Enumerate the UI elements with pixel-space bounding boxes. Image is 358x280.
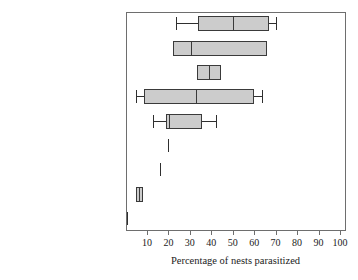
median-line — [191, 41, 192, 56]
box-rect — [173, 41, 267, 56]
x-axis-tick — [233, 231, 234, 235]
x-axis-tick — [319, 231, 320, 235]
whisker-high-line — [202, 121, 216, 122]
whisker-high-line — [254, 96, 262, 97]
whisker-low-cap — [153, 115, 154, 128]
single-value-marker — [160, 163, 161, 176]
single-value-marker — [168, 139, 169, 152]
whisker-low-cap — [136, 90, 137, 103]
median-line — [209, 65, 210, 80]
median-line — [169, 114, 170, 129]
x-axis-tick — [147, 231, 148, 235]
box-plot-row — [0, 184, 358, 206]
x-axis-tick — [254, 231, 255, 235]
box-plot-row — [0, 208, 358, 230]
x-axis-tick — [276, 231, 277, 235]
box-rect — [166, 114, 201, 129]
box-rect — [144, 89, 254, 104]
x-axis-title: Percentage of nests parasitized — [126, 255, 346, 266]
box-plot-row — [0, 38, 358, 60]
x-axis-tick — [190, 231, 191, 235]
box-plot-row — [0, 13, 358, 35]
box-plot-row — [0, 86, 358, 108]
whisker-high-cap — [216, 115, 217, 128]
whisker-low-cap — [176, 17, 177, 30]
whisker-high-cap — [262, 90, 263, 103]
x-axis-tick — [168, 231, 169, 235]
median-line — [139, 187, 140, 202]
whisker-low-line — [176, 23, 199, 24]
x-axis-tick — [297, 231, 298, 235]
x-axis-tick-label: 100 — [326, 238, 354, 248]
single-value-marker — [127, 212, 128, 225]
box-plot-figure: Common GoldeneyeBarrow's GoldeneyeHooded… — [0, 0, 358, 280]
whisker-low-line — [136, 96, 144, 97]
whisker-high-cap — [276, 17, 277, 30]
box-plot-row — [0, 159, 358, 181]
box-plot-row — [0, 135, 358, 157]
box-plot-row — [0, 62, 358, 84]
x-axis-tick — [340, 231, 341, 235]
box-rect — [198, 16, 269, 31]
whisker-low-line — [153, 121, 166, 122]
box-plot-row — [0, 111, 358, 133]
median-line — [196, 89, 197, 104]
median-line — [233, 16, 234, 31]
x-axis-tick — [211, 231, 212, 235]
